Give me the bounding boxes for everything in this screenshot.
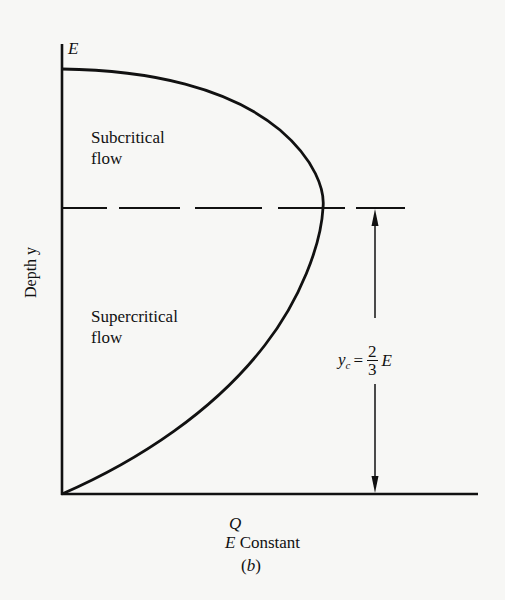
supercritical-label-line2: flow (91, 328, 122, 347)
x-axis-sublabel: E Constant (225, 533, 300, 552)
critical-depth-equation: yc = 2 3 E (338, 343, 392, 378)
eq-fraction: 2 3 (367, 343, 378, 378)
x-axis-label: Q (229, 514, 241, 533)
eq-lhs: yc (338, 350, 350, 371)
subcritical-label-line1: Subcritical (91, 128, 165, 147)
qy-diagram (0, 0, 505, 600)
y-axis-label: Depth y (22, 247, 40, 298)
dimension-arrow-down (372, 384, 379, 493)
dimension-arrow-up (372, 209, 379, 318)
subcritical-label-line2: flow (91, 149, 122, 168)
y-axis-top-label: E (68, 39, 78, 58)
supercritical-label-line1: Supercritical (91, 307, 178, 326)
figure-caption: (b) (241, 556, 261, 575)
eq-equals: = (353, 351, 363, 371)
eq-rhs: E (382, 351, 392, 371)
